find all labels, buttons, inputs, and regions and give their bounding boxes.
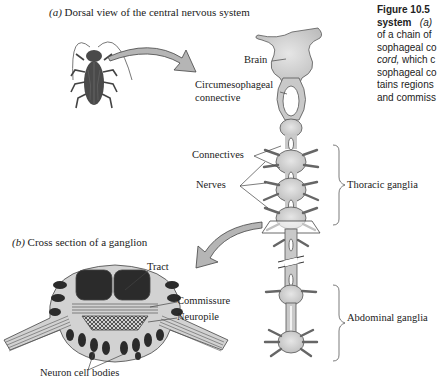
label-brain: Brain [244,55,267,66]
label-neuropile: Neuropile [177,312,219,323]
panel-b-title-text: Cross section of a ganglion [28,236,148,248]
label-tract: Tract [147,262,169,273]
label-commissure: Commissure [177,296,230,307]
label-abdominal-ganglia: Abdominal ganglia [347,313,428,324]
label-circumesophageal-1: Circumesophageal [195,80,273,91]
label-nerves: Nerves [196,180,226,191]
panel-b-letter: (b) [12,236,25,248]
central-nervous-system [256,28,322,356]
arrow-to-cross-section [196,222,262,268]
label-circumesophageal-2: connective [195,93,240,104]
label-neuron-cell-bodies: Neuron cell bodies [40,368,119,379]
label-connectives: Connectives [192,150,244,161]
panel-b-title: (b) Cross section of a ganglion [12,236,147,248]
label-thoracic-ganglia: Thoracic ganglia [347,180,418,191]
